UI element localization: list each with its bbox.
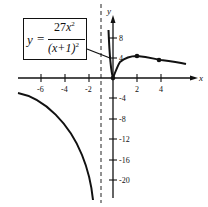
y-tick-label: -4 [119,94,126,103]
y-axis-arrow-icon [111,15,116,23]
denominator-base: (x+1) [48,41,75,55]
label-leader-line [87,49,110,58]
fraction-bar [48,39,85,40]
x-tick-label: 4 [159,85,163,94]
numerator-coefficient: 27 [54,20,66,34]
y-tick-label: -12 [119,135,130,144]
data-point [111,76,116,81]
formula-numerator: 27x2 [54,20,75,35]
x-tick-label: -6 [37,85,44,94]
curve-left-branch [18,93,93,200]
data-point [157,58,162,63]
x-tick-label: -2 [85,85,92,94]
x-axis-label: x [198,73,203,83]
y-tick-label: -8 [119,115,126,124]
x-tick-label: 2 [135,85,139,94]
y-tick-label: 8 [119,34,123,43]
formula-equals: = [37,31,44,47]
data-point [135,54,140,59]
y-tick-label: -16 [119,156,130,165]
formula-denominator: (x+1)2 [48,41,79,56]
formula-lhs: y [27,32,33,48]
denominator-exponent: 2 [75,41,79,49]
y-tick-label: -20 [119,176,130,185]
x-tick-label: -4 [61,85,68,94]
x-axis-arrow-icon [190,76,198,81]
numerator-exponent: 2 [71,20,75,28]
y-axis-label: y [106,6,111,16]
function-label-box: y = 27x2 (x+1)2 [23,18,87,60]
